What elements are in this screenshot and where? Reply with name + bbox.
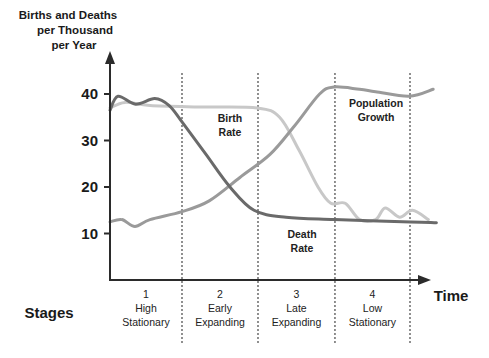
stage-3-label-line-3: Expanding [272, 316, 322, 328]
stage-4-label-line-3: Stationary [349, 316, 397, 328]
y-axis-label-line-2: per Thousand [37, 24, 113, 36]
birth-rate-label-line-2: Rate [219, 126, 242, 138]
y-tick-label-30: 30 [81, 132, 98, 149]
stage-2-label-line-2: Early [208, 302, 233, 314]
stage-3-label-line-1: 3 [294, 288, 300, 300]
stage-2-label-line-1: 2 [217, 288, 223, 300]
y-ticks: 10203040 [81, 85, 110, 242]
x-axis-label: Time [434, 287, 469, 304]
y-tick-label-20: 20 [81, 178, 98, 195]
death-rate-label-line-1: Death [287, 228, 316, 240]
y-axis-arrowhead [105, 51, 115, 64]
demographic-transition-chart: Births and Deaths per Thousand per Year … [0, 0, 489, 358]
population-growth-label-line-2: Growth [358, 111, 395, 123]
y-axis-label-line-3: per Year [51, 39, 97, 51]
stage-3-label-line-2: Late [286, 302, 307, 314]
stage-labels: 1HighStationary2EarlyExpanding3LateExpan… [122, 288, 397, 328]
stages-label: Stages [24, 304, 73, 321]
birth-rate-label-line-1: Birth [218, 112, 243, 124]
stage-4-label-line-2: Low [363, 302, 383, 314]
stage-1-label-line-1: 1 [143, 288, 149, 300]
stage-1-label-line-2: High [135, 302, 157, 314]
stage-2-label-line-3: Expanding [195, 316, 245, 328]
death-rate-label-line-2: Rate [291, 242, 314, 254]
stage-1-label-line-3: Stationary [122, 316, 170, 328]
y-axis-label-line-1: Births and Deaths [19, 9, 117, 21]
y-tick-label-40: 40 [81, 85, 98, 102]
y-tick-label-10: 10 [81, 225, 98, 242]
x-axis-arrowhead [418, 275, 431, 285]
stage-4-label-line-1: 4 [370, 288, 376, 300]
population-growth-label-line-1: Population [349, 97, 403, 109]
